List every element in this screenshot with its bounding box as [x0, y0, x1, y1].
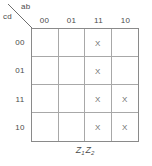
- kmap-cell: X: [112, 85, 139, 113]
- kmap-cell: [112, 57, 139, 85]
- cell-mark: X: [85, 123, 111, 132]
- output-function-label: Z1Z2: [31, 145, 139, 159]
- output-term-1: Z1: [76, 145, 85, 155]
- output-term-2: Z2: [86, 145, 95, 155]
- cell-mark: X: [85, 66, 111, 75]
- kmap-cell: [32, 113, 59, 141]
- cell-mark: X: [112, 123, 139, 132]
- kmap-grid: X X X X X X: [31, 28, 139, 142]
- kmap-cell: [32, 85, 59, 113]
- row-header: 11: [11, 85, 29, 114]
- kmap-cell: [59, 29, 86, 57]
- kmap-cell: [32, 29, 59, 57]
- kmap-cell: [112, 29, 139, 57]
- row-header: 10: [11, 114, 29, 143]
- kmap-cell: X: [85, 113, 112, 141]
- kmap-cell: X: [85, 57, 112, 85]
- kmap-cell: X: [85, 29, 112, 57]
- karnaugh-map: cd ab 00 01 11 10 00 01 11 10 X X X X X …: [0, 0, 152, 166]
- cell-mark: X: [85, 38, 111, 47]
- column-header: 10: [112, 15, 139, 27]
- output-term-1-subscript: 1: [81, 150, 84, 156]
- kmap-cell: X: [85, 85, 112, 113]
- kmap-corner-header: cd ab: [2, 1, 34, 29]
- row-header: 01: [11, 57, 29, 86]
- kmap-cell: [59, 85, 86, 113]
- row-header: 00: [11, 28, 29, 57]
- column-header: 01: [58, 15, 85, 27]
- cell-mark: X: [112, 94, 139, 103]
- kmap-cell: [32, 57, 59, 85]
- column-header: 11: [85, 15, 112, 27]
- kmap-cell: X: [112, 113, 139, 141]
- output-term-2-subscript: 2: [91, 150, 94, 156]
- row-header-column: 00 01 11 10: [11, 28, 29, 142]
- kmap-cell: [59, 113, 86, 141]
- column-variable-label: ab: [21, 2, 30, 11]
- row-variable-label: cd: [3, 12, 12, 21]
- column-header-row: 00 01 11 10: [31, 15, 139, 27]
- kmap-cell: [59, 57, 86, 85]
- column-header: 00: [31, 15, 58, 27]
- cell-mark: X: [85, 94, 111, 103]
